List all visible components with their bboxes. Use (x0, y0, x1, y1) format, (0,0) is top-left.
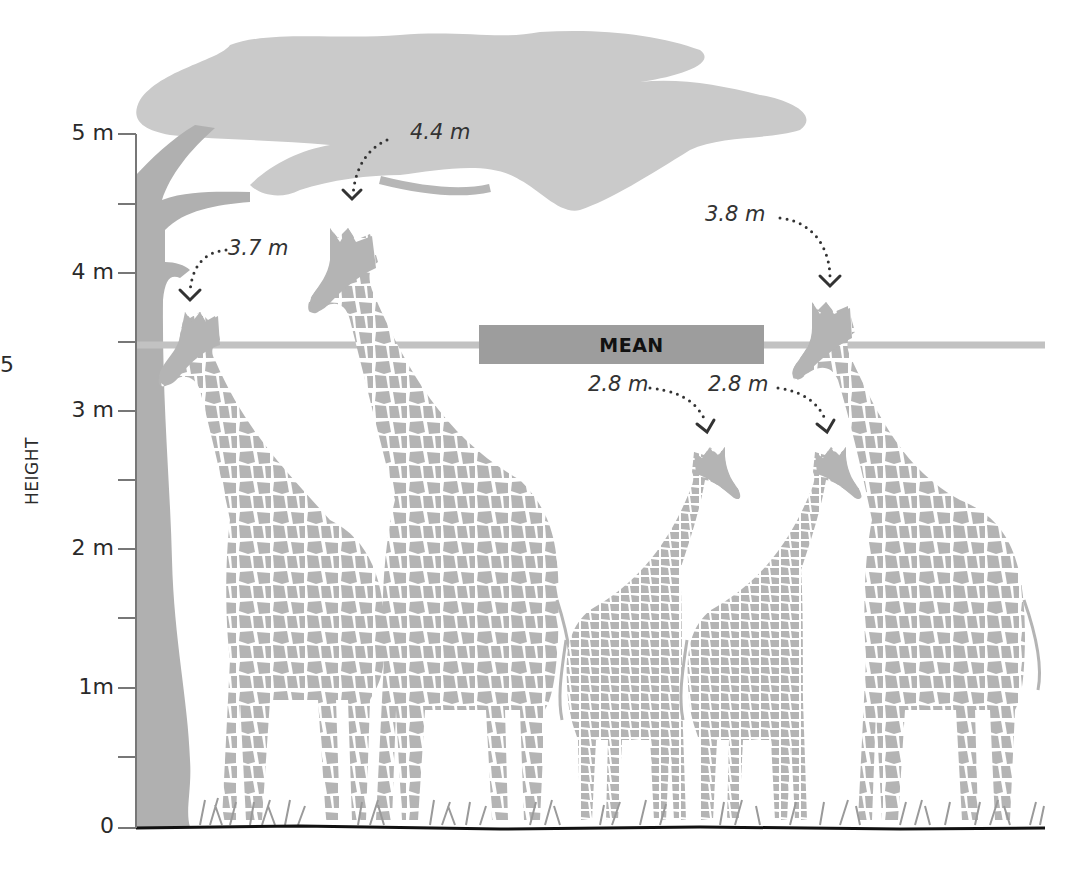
ground-line (136, 826, 1045, 829)
y-tick-2m: 2 m (34, 535, 114, 560)
arrow-head-3 (697, 420, 714, 432)
y-axis (118, 134, 136, 828)
tree-branch (380, 180, 490, 191)
giraffe-5 (792, 302, 1039, 820)
tree-canopy (136, 31, 806, 211)
giraffe-1 (159, 312, 399, 820)
y-tick-5m: 5 m (34, 120, 114, 145)
giraffe-height-diagram: 5 m 4 m 3 m 2 m 1m 0 5 HEIGHT MEAN 3.7 m… (0, 0, 1076, 876)
arrow-giraffe-3 (650, 388, 706, 422)
arrow-head-5 (820, 276, 840, 286)
callout-giraffe-5: 3.8 m (705, 202, 766, 226)
giraffe-2 (308, 228, 573, 820)
y-tick-0: 0 (34, 813, 114, 838)
giraffe-4 (681, 447, 861, 820)
arrow-head-4 (817, 420, 834, 432)
arrow-head-1 (180, 290, 200, 300)
diagram-artwork (0, 0, 1076, 876)
y-tick-3m: 3 m (34, 397, 114, 422)
callout-giraffe-2: 4.4 m (410, 120, 471, 144)
mean-badge: MEAN (479, 325, 764, 364)
mean-label: MEAN (599, 334, 664, 356)
arrow-giraffe-4 (778, 388, 826, 422)
callout-giraffe-4: 2.8 m (708, 372, 769, 396)
callout-giraffe-3: 2.8 m (588, 372, 649, 396)
cropped-edge-label: 5 (0, 352, 14, 377)
y-tick-1m: 1m (34, 674, 114, 699)
arrow-head-2 (343, 190, 361, 199)
callout-giraffe-1: 3.7 m (228, 236, 289, 260)
arrow-giraffe-5 (780, 218, 830, 278)
y-axis-title: HEIGHT (22, 437, 42, 505)
y-tick-4m: 4 m (34, 259, 114, 284)
arrow-giraffe-1 (190, 250, 226, 292)
